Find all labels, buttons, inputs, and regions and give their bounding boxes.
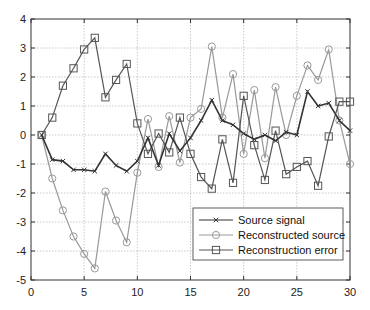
x-tick-label: 20 [238,286,250,298]
legend-item-label: Reconstruction error [238,244,338,256]
legend-item-label: Source signal [238,214,305,226]
legend-item-label: Reconstructed source [238,229,345,241]
line-chart: 051015202530-5-4-3-2-101234Source signal… [0,0,370,310]
y-tick-label: 1 [20,100,26,112]
y-tick-label: -5 [16,274,26,286]
y-tick-label: 4 [20,13,26,25]
x-tick-label: 5 [81,286,87,298]
y-tick-label: -3 [16,216,26,228]
legend: Source signalReconstructed sourceReconst… [193,208,345,260]
x-tick-label: 15 [184,286,196,298]
y-tick-label: 0 [20,129,26,141]
x-tick-label: 25 [291,286,303,298]
y-tick-label: 3 [20,42,26,54]
x-tick-label: 30 [344,286,356,298]
y-tick-label: -4 [16,245,26,257]
y-tick-label: -1 [16,158,26,170]
x-tick-label: 10 [131,286,143,298]
y-tick-label: 2 [20,71,26,83]
x-tick-label: 0 [28,286,34,298]
y-tick-label: -2 [16,187,26,199]
